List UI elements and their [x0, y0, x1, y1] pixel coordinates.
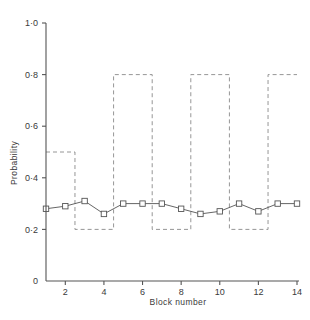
x-tick-label: 14 [292, 287, 302, 297]
y-tick-label: 0 [33, 276, 38, 286]
data-point-marker [275, 201, 280, 206]
y-tick-label: 0·4 [25, 173, 38, 183]
probability-line-chart: 00·20·40·60·81·0 2468101214 Probability … [0, 0, 310, 320]
x-tick-label: 10 [215, 287, 225, 297]
data-point-marker [236, 201, 241, 206]
data-point-marker [101, 211, 106, 216]
y-axis-title: Probability [9, 141, 19, 185]
data-point-marker [159, 201, 164, 206]
data-point-marker [121, 201, 126, 206]
data-point-marker [294, 201, 299, 206]
data-point-marker [63, 203, 68, 208]
x-tick-label: 12 [253, 287, 263, 297]
data-point-marker [178, 206, 183, 211]
x-tick-label: 2 [63, 287, 68, 297]
data-point-marker [198, 211, 203, 216]
data-point-marker [140, 201, 145, 206]
data-point-marker [256, 209, 261, 214]
y-tick-label: 0·8 [25, 70, 38, 80]
x-tick-label: 6 [140, 287, 145, 297]
y-tick-label: 0·6 [25, 121, 38, 131]
x-tick-label: 8 [179, 287, 184, 297]
y-tick-label: 0·2 [25, 225, 38, 235]
y-tick-label: 1·0 [25, 18, 38, 28]
data-point-marker [82, 198, 87, 203]
x-tick-label: 4 [101, 287, 106, 297]
x-axis-title: Block number [150, 297, 207, 307]
data-point-marker [217, 209, 222, 214]
chart-figure: 00·20·40·60·81·0 2468101214 Probability … [0, 0, 310, 320]
